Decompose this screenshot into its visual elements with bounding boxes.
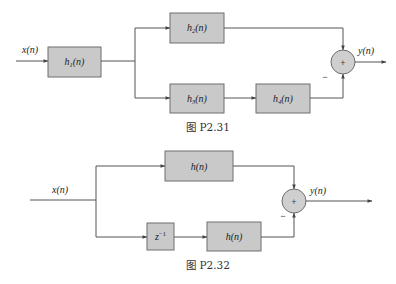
arrow-h-top-to-summer [233, 166, 294, 189]
svg-text:h(n): h(n) [226, 231, 243, 243]
figure-caption: 图 P2.31 [186, 121, 230, 133]
figure-caption: 图 P2.32 [186, 259, 230, 271]
svg-text:h2(n): h2(n) [187, 22, 208, 34]
summing-junction-2: + [282, 189, 306, 213]
minus-sign: − [280, 211, 285, 221]
svg-text:+: + [340, 58, 345, 68]
svg-text:h(n): h(n) [191, 161, 208, 173]
block-h4: h4(n) [256, 84, 310, 113]
block-h-top: h(n) [165, 151, 233, 181]
output-label-y-n: y(n) [357, 45, 375, 57]
input-label-x-n: x(n) [21, 44, 39, 56]
input-label-x-n: x(n) [51, 184, 69, 196]
svg-text:h1(n): h1(n) [65, 56, 86, 68]
figure-p2-31: x(n) h1(n) h2(n) h3(n) [16, 13, 386, 133]
block-h1: h1(n) [48, 47, 101, 77]
output-label-y-n: y(n) [309, 185, 327, 197]
svg-text:h4(n): h4(n) [273, 93, 294, 105]
minus-sign: − [322, 72, 327, 82]
arrow-h2-to-summer [224, 28, 343, 50]
svg-text:+: + [291, 197, 296, 207]
svg-text:h3(n): h3(n) [187, 93, 208, 105]
arrow-h-bottom-to-summer [261, 213, 294, 237]
summing-junction-1: + [331, 50, 355, 74]
figure-p2-32: x(n) h(n) z−1 h(n) + [30, 151, 372, 271]
block-delay-z-inverse: z−1 [147, 223, 174, 250]
block-h2: h2(n) [170, 13, 224, 43]
block-diagrams: x(n) h1(n) h2(n) h3(n) [0, 0, 396, 284]
block-h-bottom: h(n) [207, 222, 261, 251]
block-h3: h3(n) [170, 84, 224, 113]
